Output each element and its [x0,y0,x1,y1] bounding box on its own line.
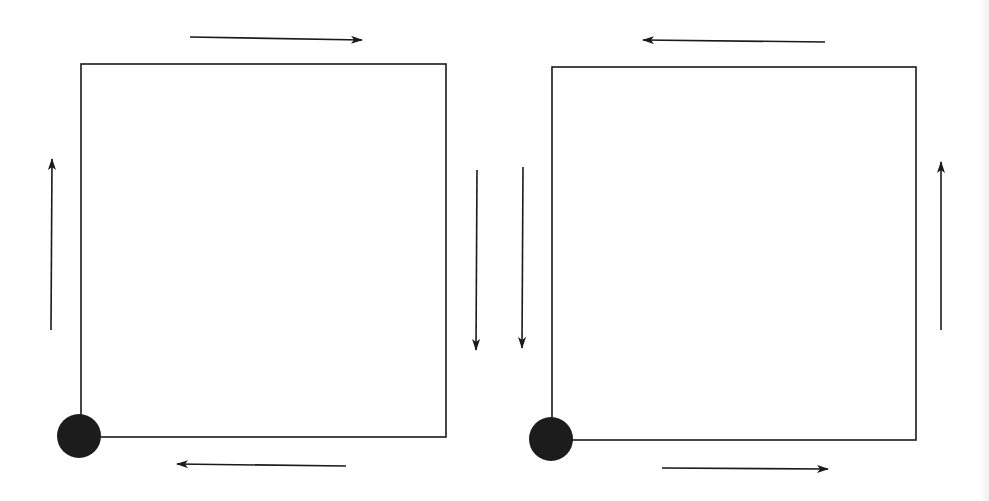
start-point-dot [529,417,573,461]
arrow-down-icon [522,167,523,348]
arrow-right-icon [190,37,362,40]
arrow-left-icon [177,464,346,466]
arrow-down-icon [476,170,477,350]
arrow-right-icon [662,468,828,469]
panel-clockwise [51,37,477,466]
diagram-canvas [0,0,989,501]
start-point-dot [57,414,101,458]
panel-counter-clockwise [522,40,941,469]
circulation-diagram [0,0,989,501]
arrow-up-icon [51,159,52,330]
square-outline [552,67,916,440]
square-outline [81,64,446,437]
arrow-left-icon [643,40,825,42]
